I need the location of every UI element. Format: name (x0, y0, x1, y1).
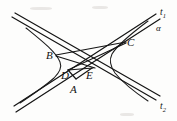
point-label-e: E (86, 70, 93, 81)
point-label-c: C (127, 37, 134, 48)
scan-artifact (30, 7, 52, 10)
hyperbola-right-branch (110, 21, 148, 101)
axis-label-t1: t1 (160, 8, 166, 19)
point-label-b: B (46, 50, 53, 61)
axis-label-t1-sub: 1 (163, 12, 166, 19)
diagram-canvas (0, 0, 177, 121)
axis-label-t2: t2 (160, 102, 166, 113)
scan-artifact (92, 6, 108, 9)
point-label-d: D (61, 70, 69, 81)
scan-artifact (120, 113, 134, 116)
geometry-figure: B C D E A t1 t2 α (0, 0, 177, 121)
point-label-a: A (70, 84, 77, 95)
hyperbola-left-branch (20, 28, 61, 103)
angle-label-alpha: α (156, 24, 161, 33)
axis-label-t2-sub: 2 (163, 106, 166, 113)
tangent-line-t2 (12, 17, 156, 100)
